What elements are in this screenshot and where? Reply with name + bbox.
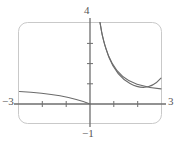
- y-min-label: −1: [82, 128, 94, 139]
- function-plot: [0, 0, 180, 146]
- x-min-label: −3: [2, 96, 14, 107]
- y-max-label: 4: [84, 5, 90, 16]
- graph-viewport: 4 −1 −3 3: [0, 0, 180, 146]
- x-max-label: 3: [168, 96, 174, 107]
